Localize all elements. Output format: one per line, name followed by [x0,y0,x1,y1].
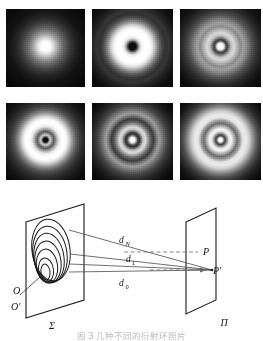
distance-label-dN-subscript: N [125,240,131,247]
source-point-label-O-prime: O' [11,301,21,312]
diffraction-panel-bottom-center [92,103,173,180]
distance-label-d1-subscript: 1 [132,259,135,266]
diffraction-panel-top-left [6,9,85,87]
distance-label-d1: d 1 [126,254,135,266]
ring-field [92,9,173,87]
ring-field [6,9,85,87]
diffraction-panel-top-center [92,9,173,87]
distance-label-d0-subscript: 0 [126,283,129,290]
image-point-label-P: P [202,246,209,257]
optical-schematic: d N d 1 d 0 O O' P P' Σ Π [0,182,263,330]
diffraction-panel-bottom-right [180,103,261,180]
distance-label-d0: d 0 [119,278,129,290]
plane-label-pi: Π [219,317,228,328]
diffraction-panel-grid [0,0,263,182]
source-point-label-O: O [13,285,20,296]
ring-field [6,103,85,180]
diffraction-panel-top-right [180,9,261,87]
ring-field [180,9,261,87]
distance-label-dN-letter: d [119,235,124,245]
screen-plane-pi [186,208,216,314]
figure-caption: 图 3 几种不同的衍射环照片 [0,331,263,341]
distance-label-dN: d N [119,235,131,247]
diffraction-panel-bottom-left [6,103,85,180]
image-point-label-P-prime: P' [212,265,222,276]
ring-field [92,103,173,180]
distance-label-d0-letter: d [119,278,124,288]
figure-caption-row: 图 3 几种不同的衍射环照片 [0,331,263,341]
ring-field [180,103,261,180]
figure-root: d N d 1 d 0 O O' P P' Σ Π [0,0,263,341]
plane-label-sigma: Σ [48,320,55,330]
distance-label-d1-letter: d [126,254,131,264]
